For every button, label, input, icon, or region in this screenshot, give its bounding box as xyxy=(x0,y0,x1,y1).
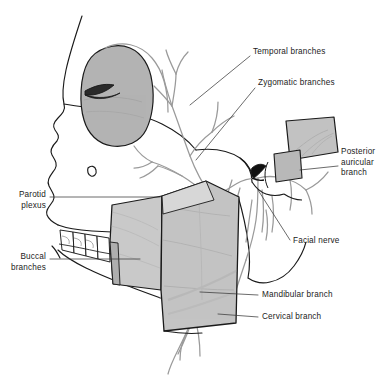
label-posterior-auricular-branch: Posterior auricular branch xyxy=(341,147,375,179)
reflected-auricle-flap xyxy=(265,117,338,188)
anatomy-illustration xyxy=(0,0,384,378)
label-mandibular-branch: Mandibular branch xyxy=(262,290,333,301)
orbital-region xyxy=(81,46,153,147)
anatomy-figure: Temporal branches Zygomatic branches Pos… xyxy=(0,0,384,378)
label-zygomatic-branches: Zygomatic branches xyxy=(258,78,335,89)
masseter-muscle-block xyxy=(110,196,162,290)
label-temporal-branches: Temporal branches xyxy=(253,47,325,58)
label-facial-nerve: Facial nerve xyxy=(293,236,340,247)
parotid-gland-block xyxy=(161,181,239,331)
leader-temporal-branches xyxy=(190,56,250,105)
leader-zygomatic-branches xyxy=(196,88,255,160)
neck-contour xyxy=(164,331,202,333)
leader-facial-nerve xyxy=(258,190,290,240)
label-cervical-branch: Cervical branch xyxy=(262,312,321,323)
leader-posterior-auricular xyxy=(300,166,338,170)
label-parotid-plexus: Parotid plexus xyxy=(0,190,46,211)
label-buccal-branches: Buccal branches xyxy=(0,252,46,273)
